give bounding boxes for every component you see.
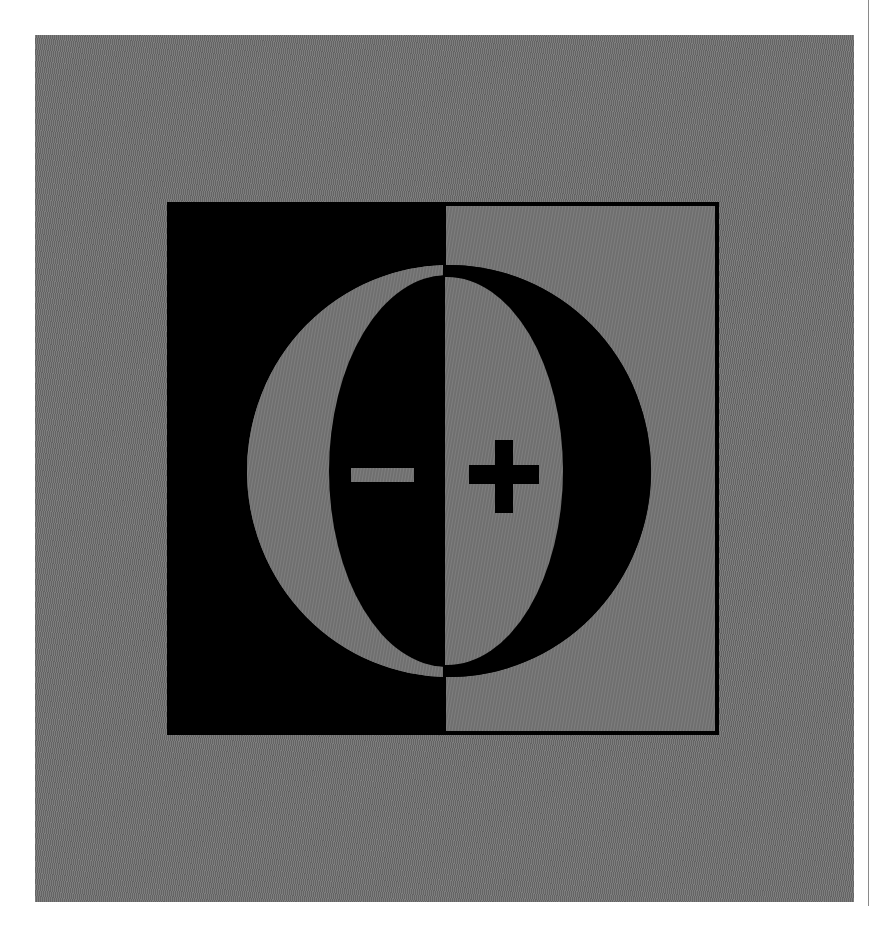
page: − + (0, 0, 880, 926)
gray-panel (35, 35, 854, 902)
dipole-emblem (35, 35, 854, 902)
minus-sign-icon (351, 468, 414, 482)
page-edge-line (868, 0, 869, 906)
